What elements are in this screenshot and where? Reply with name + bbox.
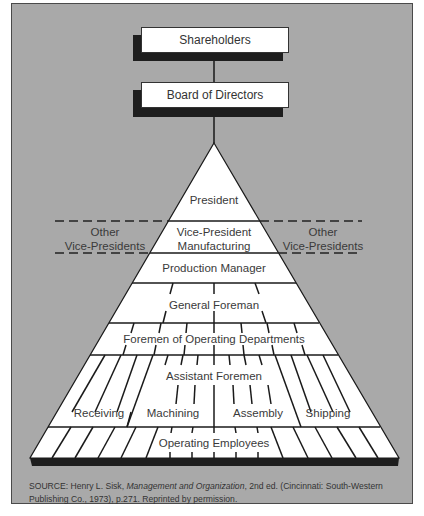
level-foremen-operating-departments: Foremen of Operating Departments	[104, 332, 324, 346]
department-shipping: Shipping	[301, 406, 355, 420]
receiving-label: Receiving	[74, 407, 125, 419]
general-foreman-label: General Foreman	[169, 299, 259, 311]
left-side-line2: Vice-Presidents	[60, 239, 150, 253]
shareholders-box: Shareholders	[141, 27, 289, 53]
foremen-label: Foremen of Operating Departments	[123, 333, 305, 345]
level-production-manager: Production Manager	[144, 261, 284, 275]
other-vice-presidents-right: Other Vice-Presidents	[278, 225, 368, 253]
right-side-line2: Vice-Presidents	[278, 239, 368, 253]
other-vice-presidents-left: Other Vice-Presidents	[60, 225, 150, 253]
president-label: President	[190, 194, 239, 206]
board-of-directors-label: Board of Directors	[167, 88, 264, 102]
source-prefix: SOURCE: Henry L. Sisk,	[29, 481, 126, 491]
shipping-label: Shipping	[306, 407, 351, 419]
department-receiving: Receiving	[72, 406, 126, 420]
production-manager-label: Production Manager	[162, 262, 266, 274]
assembly-label: Assembly	[233, 407, 283, 419]
level-operating-employees: Operating Employees	[144, 436, 284, 450]
board-of-directors-box: Board of Directors	[141, 82, 289, 108]
right-side-line1: Other	[278, 225, 368, 239]
vp-label-line2: Manufacturing	[154, 239, 274, 253]
assistant-foremen-label: Assistant Foremen	[166, 370, 262, 382]
operating-employees-label: Operating Employees	[159, 437, 270, 449]
left-side-line1: Other	[60, 225, 150, 239]
vp-label-line1: Vice-President	[154, 225, 274, 239]
level-president: President	[164, 193, 264, 207]
machining-label: Machining	[147, 407, 199, 419]
level-general-foreman: General Foreman	[144, 298, 284, 312]
pyramid-shadow	[30, 458, 399, 466]
level-vice-president-manufacturing: Vice-President Manufacturing	[154, 225, 274, 253]
department-assembly: Assembly	[230, 406, 286, 420]
level-assistant-foremen: Assistant Foremen	[154, 369, 274, 383]
shareholders-label: Shareholders	[179, 33, 250, 47]
source-citation: SOURCE: Henry L. Sisk, Management and Or…	[29, 480, 399, 505]
source-title: Management and Organization	[126, 481, 244, 491]
department-machining: Machining	[144, 406, 202, 420]
